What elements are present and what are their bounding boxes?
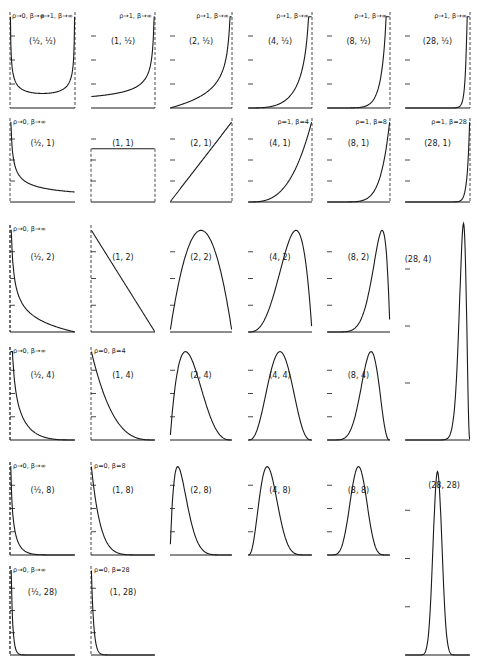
density-curve (248, 467, 311, 555)
density-panel: (4, 4) (248, 352, 312, 440)
panel-label: (8, 8) (348, 486, 370, 495)
density-panel: (8, 2) (327, 230, 390, 332)
panel-annotation: ρ=1, β=4 (277, 118, 309, 126)
panel-label: (8, 4) (348, 371, 370, 380)
density-panel: (2, 2) (170, 230, 232, 332)
panel-label: (4, 1) (269, 139, 291, 148)
density-curve (91, 17, 154, 97)
density-curve (405, 472, 469, 655)
panel-annotation: ρ→1, β→∞ (196, 12, 229, 20)
panel-label: (1, 28) (110, 588, 137, 597)
density-panel: (28, 1)ρ=1, β=28 (405, 118, 470, 202)
panel-label: (½, 28) (28, 588, 57, 597)
panel-annotation: ρ→1, β→∞ (434, 12, 467, 20)
panel-annotation: ρ=1, β=8 (355, 118, 387, 126)
density-panel: (½, 28)ρ→0, β→∞ (10, 566, 75, 655)
density-curve (10, 352, 74, 440)
density-panel: (4, 8) (248, 467, 312, 555)
panel-annotation: ρ→1, β→∞ (276, 12, 309, 20)
density-panel: (2, 4) (170, 352, 232, 440)
panel-label: (½, 4) (30, 371, 54, 380)
density-curve (91, 467, 154, 555)
density-curve (10, 467, 74, 555)
panel-label: (8, 2) (348, 253, 370, 262)
density-panel: (½, 8)ρ→0, β→∞ (10, 462, 75, 555)
panel-annotation: ρ=1, β=28 (431, 118, 467, 126)
density-panel: (½, 2)ρ→0, β→∞ (10, 225, 75, 332)
panel-label: (½, ½) (29, 37, 56, 46)
density-panel: (2, ½)ρ→1, β→∞ (170, 12, 232, 108)
density-panel: (2, 1) (170, 118, 232, 202)
density-panel: (8, 1)ρ=1, β=8 (327, 118, 390, 202)
density-curve (248, 230, 311, 332)
density-curve (10, 17, 74, 94)
panel-label: (1, 4) (112, 371, 134, 380)
density-panel: (8, 8) (327, 467, 390, 555)
density-curve (10, 571, 74, 656)
panel-label: (1, 1) (112, 139, 134, 148)
panel-annotation: ρ→0, β→∞ (13, 462, 46, 470)
panel-label: (8, ½) (346, 37, 370, 46)
panel-label: (2, 8) (190, 486, 212, 495)
density-panel: (28, ½)ρ→1, β→∞ (405, 12, 470, 108)
density-panel: (8, ½)ρ→1, β→∞ (327, 12, 390, 108)
density-panel: (1, 1) (91, 139, 155, 202)
density-panel: (8, 4) (327, 352, 390, 440)
panel-annotation: ρ→1, β→∞ (119, 12, 152, 20)
panel-label: (½, 1) (30, 139, 54, 148)
density-curve (170, 352, 231, 440)
density-curve (405, 17, 469, 108)
beta-density-grid: (½, ½)ρ→0, β→∞ρ→1, β→∞(1, ½)ρ→1, β→∞(2, … (0, 0, 477, 664)
density-curve (170, 230, 231, 329)
density-panel: (1, 28)ρ=0, β=28 (91, 566, 155, 655)
panel-label: (28, 28) (428, 481, 460, 490)
density-curve (327, 467, 389, 555)
panel-annotation: ρ→0, β→∞ (13, 118, 46, 126)
panel-label: (1, 8) (112, 486, 134, 495)
density-curve (405, 122, 469, 202)
density-panel: (½, 4)ρ→0, β→∞ (10, 347, 75, 440)
density-panel: (4, 1)ρ=1, β=4 (248, 118, 312, 202)
panel-label: (8, 1) (348, 139, 370, 148)
density-curve (91, 571, 154, 656)
density-curve (10, 122, 74, 192)
density-curve (248, 17, 311, 108)
panel-annotation: ρ→0, β→∞ (13, 347, 46, 355)
panel-label: (½, 2) (30, 253, 54, 262)
panel-label: (½, 8) (30, 486, 54, 495)
density-panel: (4, 2) (248, 230, 312, 332)
density-panel: (½, ½)ρ→0, β→∞ρ→1, β→∞ (10, 12, 75, 108)
panel-label: (28, 1) (424, 139, 451, 148)
panel-label: (1, 2) (112, 253, 134, 262)
density-curve (327, 122, 389, 202)
density-panel: (1, ½)ρ→1, β→∞ (91, 12, 155, 108)
panel-label: (2, 2) (190, 253, 212, 262)
density-panel: (4, ½)ρ→1, β→∞ (248, 12, 312, 108)
density-curve (248, 352, 311, 440)
panel-label: (4, ½) (268, 37, 292, 46)
panel-label: (1, ½) (111, 37, 135, 46)
panel-annotation: ρ→1, β→∞ (40, 12, 73, 20)
density-panel: (1, 4)ρ=0, β=4 (91, 347, 155, 440)
density-curve (327, 17, 389, 108)
density-panel: (2, 8) (170, 467, 232, 555)
density-curve (170, 17, 231, 108)
density-curve (327, 230, 389, 332)
panel-label: (28, ½) (423, 37, 452, 46)
panel-annotation: ρ→1, β→∞ (354, 12, 387, 20)
panel-annotation: ρ=0, β=28 (94, 566, 130, 574)
panel-label: (2, 1) (190, 139, 212, 148)
density-curve (248, 122, 311, 202)
density-curve (327, 352, 389, 440)
panel-label: (4, 8) (269, 486, 291, 495)
density-curve (10, 230, 74, 332)
panel-annotation: ρ=0, β=4 (94, 347, 126, 355)
panel-annotation: ρ→0, β→∞ (13, 225, 46, 233)
density-panel: (28, 4) (405, 223, 470, 440)
density-panel: (1, 8)ρ=0, β=8 (91, 462, 155, 555)
panel-label: (4, 2) (269, 253, 291, 262)
panel-label: (28, 4) (405, 255, 432, 264)
panel-label: (4, 4) (269, 371, 291, 380)
density-panel: (1, 2) (91, 225, 155, 332)
density-curve (170, 467, 231, 555)
